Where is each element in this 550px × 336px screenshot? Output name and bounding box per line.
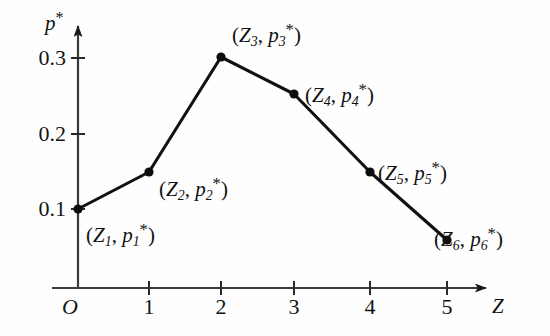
annotation-point-2: (Z2, p2*)	[159, 176, 228, 203]
x-tick-label-1: 1	[144, 296, 155, 318]
x-tick-label-4: 4	[365, 296, 376, 318]
annotation-point-4: (Z4, p4*)	[305, 82, 374, 109]
y-tick-label-0.2: 0.2	[22, 123, 66, 145]
annotation-point-3: (Z3, p3*)	[232, 22, 301, 49]
line-chart-canvas	[0, 0, 550, 336]
data-line-series	[78, 57, 447, 240]
data-point-4	[289, 89, 298, 98]
y-axis-label: p*	[45, 10, 64, 34]
data-point-1	[73, 204, 82, 213]
y-tick-label-0.1: 0.1	[22, 198, 66, 220]
x-tick-label-5: 5	[442, 296, 453, 318]
x-axis-label: Z	[492, 296, 504, 317]
data-point-2	[144, 167, 153, 176]
annotation-point-5: (Z5, p5*)	[378, 160, 447, 187]
annotation-point-6: (Z6, p6*)	[434, 226, 503, 253]
data-point-markers	[73, 52, 451, 244]
annotation-point-1: (Z1, p1*)	[86, 222, 155, 249]
data-point-3	[216, 52, 225, 61]
data-point-5	[365, 167, 374, 176]
x-tick-label-3: 3	[289, 296, 300, 318]
y-tick-label-0.3: 0.3	[22, 47, 66, 69]
origin-label: O	[62, 296, 78, 318]
x-tick-label-2: 2	[216, 296, 227, 318]
chart-figure: p* Z O 0.3 0.2 0.1 1 2 3 4 5 (Z1, p1*) (…	[0, 0, 550, 336]
